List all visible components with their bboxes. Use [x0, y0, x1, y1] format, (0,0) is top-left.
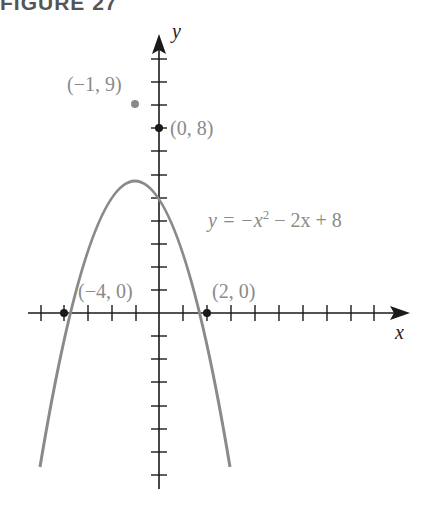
parabola-plot: (−1, 9) (0, 8) (−4, 0) (2, 0) y = −x2 − … [0, 0, 433, 514]
y-intercept-point [155, 124, 163, 132]
vertex-label: (−1, 9) [67, 73, 122, 96]
x-intercept-right-label: (2, 0) [212, 280, 255, 303]
x-intercept-left-label: (−4, 0) [78, 280, 133, 303]
vertex-point [131, 100, 139, 108]
x-axis-label: x [394, 321, 404, 343]
equation-label: y = −x2 − 2x + 8 [206, 207, 342, 232]
y-axis-label: y [170, 20, 181, 43]
y-intercept-label: (0, 8) [170, 117, 213, 140]
x-axis [28, 305, 410, 321]
y-axis [151, 34, 167, 489]
parabola-curve [40, 181, 230, 467]
x-intercept-left-point [60, 309, 68, 317]
x-intercept-right-point [203, 309, 211, 317]
